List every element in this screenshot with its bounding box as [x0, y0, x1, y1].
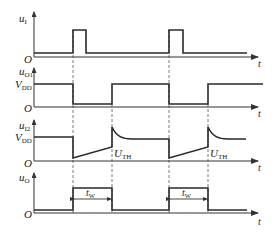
signal-ui [34, 30, 247, 53]
time-label: t [258, 216, 261, 227]
axis-label-ui: uI [19, 12, 28, 26]
panel-uc2: uI2 VDD UTH UTH O t [15, 119, 261, 173]
axis-label-uo: uO [19, 171, 30, 185]
origin-label: O [24, 53, 32, 65]
panel-uo: tW tW uO O t [19, 171, 261, 227]
timing-diagram: uI O t uO1 VDD O t uI2 VDD UTH UTH O t t… [0, 0, 277, 235]
uth-label-1: UTH [114, 147, 131, 161]
axis-label-uo1: uO1 [19, 65, 34, 79]
panel-uo1: uO1 VDD O t [15, 65, 263, 119]
uth-label-2: UTH [210, 147, 227, 161]
time-label: t [258, 108, 261, 119]
signal-uo1 [34, 84, 263, 104]
vdd-label: VDD [15, 131, 32, 145]
panel-ui: uI O t [19, 12, 261, 69]
time-label: t [258, 162, 261, 173]
origin-label: O [24, 208, 32, 220]
origin-label: O [24, 102, 32, 114]
origin-label: O [24, 157, 32, 169]
signal-uo [34, 188, 247, 210]
time-label: t [258, 58, 261, 69]
vdd-label: VDD [15, 78, 32, 92]
